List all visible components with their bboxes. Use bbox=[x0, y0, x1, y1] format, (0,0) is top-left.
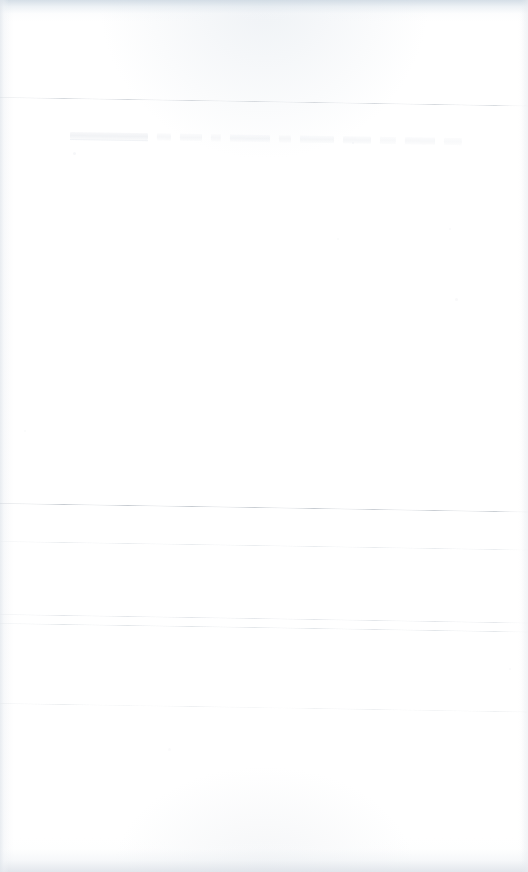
rule-stroke bbox=[0, 703, 528, 712]
ghost-word-mark bbox=[230, 135, 270, 143]
paper-background bbox=[0, 0, 528, 872]
ghost-word-mark bbox=[405, 137, 435, 144]
ghost-word bbox=[405, 137, 435, 144]
ghost-underscore bbox=[70, 139, 148, 141]
horizontal-rule bbox=[0, 623, 528, 632]
ghost-word bbox=[380, 137, 396, 144]
ghost-word-mark bbox=[279, 135, 291, 142]
scan-speck bbox=[168, 748, 171, 751]
scan-speck bbox=[24, 430, 26, 432]
horizontal-rule bbox=[0, 541, 528, 550]
ghost-word bbox=[343, 136, 371, 143]
ghost-word bbox=[211, 134, 221, 141]
scan-speck bbox=[455, 298, 458, 301]
ghost-word-mark bbox=[444, 138, 462, 145]
ghost-word-mark bbox=[211, 134, 221, 141]
ghost-word bbox=[180, 134, 202, 141]
scan-speck bbox=[509, 668, 511, 670]
bottom-scan-edge bbox=[0, 838, 528, 872]
ghost-word-mark bbox=[70, 132, 148, 140]
ghost-word-mark bbox=[343, 136, 371, 143]
rule-stroke bbox=[0, 97, 528, 106]
rule-stroke bbox=[0, 503, 528, 512]
rule-stroke bbox=[0, 623, 528, 632]
ghost-word-mark bbox=[300, 136, 334, 144]
ghost-word bbox=[70, 132, 148, 140]
ghost-text-line bbox=[70, 132, 462, 145]
ghost-word-mark bbox=[180, 134, 202, 141]
scanned-page bbox=[0, 0, 528, 872]
top-scan-edge bbox=[0, 0, 528, 22]
rule-stroke bbox=[0, 614, 528, 623]
ghost-word bbox=[230, 135, 270, 143]
horizontal-rule bbox=[0, 703, 528, 712]
horizontal-rule bbox=[0, 614, 528, 623]
ghost-word-mark bbox=[157, 133, 171, 140]
scan-speck bbox=[449, 228, 451, 230]
scan-speck bbox=[337, 238, 339, 240]
ghost-word-mark bbox=[380, 137, 396, 144]
scan-speck bbox=[73, 152, 76, 155]
horizontal-rule bbox=[0, 97, 528, 106]
ghost-word bbox=[444, 138, 462, 145]
rule-stroke bbox=[0, 541, 528, 550]
right-scan-edge bbox=[521, 0, 528, 872]
ghost-word bbox=[279, 135, 291, 142]
ghost-word bbox=[300, 136, 334, 144]
horizontal-rule bbox=[0, 503, 528, 512]
scan-speck bbox=[352, 142, 354, 144]
left-scan-edge bbox=[0, 0, 9, 872]
ghost-word bbox=[157, 133, 171, 140]
